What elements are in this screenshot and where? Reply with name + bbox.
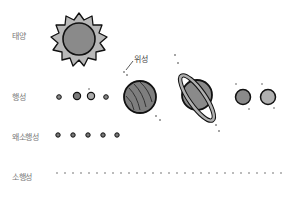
saturn-icon bbox=[174, 54, 220, 132]
neptune-icon bbox=[261, 90, 276, 105]
jupiter-icon bbox=[124, 74, 161, 121]
satellite-pointer bbox=[126, 61, 133, 70]
sun-icon bbox=[51, 13, 107, 66]
solar-system-diagram bbox=[0, 0, 287, 203]
uranus-icon bbox=[236, 90, 251, 105]
planets-row bbox=[57, 54, 276, 132]
asteroids-row bbox=[56, 172, 281, 173]
dwarf-planets-row bbox=[56, 133, 119, 137]
